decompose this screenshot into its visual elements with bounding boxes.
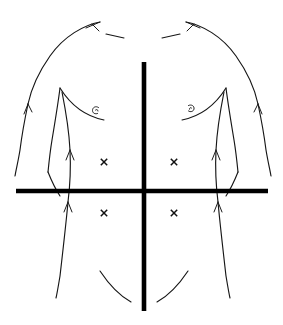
- torso-diagram-canvas: [0, 0, 283, 325]
- anatomical-quadrant-diagram: [0, 0, 283, 325]
- diagram-background: [0, 0, 283, 325]
